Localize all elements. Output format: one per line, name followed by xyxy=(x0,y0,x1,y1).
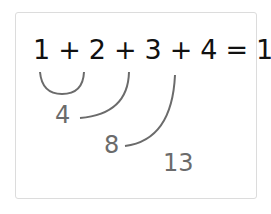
arc-to-4-icon xyxy=(80,72,129,118)
sum-arcs xyxy=(0,0,271,214)
running-sum-4: 4 xyxy=(55,103,70,127)
arc-1-2-icon xyxy=(40,72,84,94)
running-sum-13: 13 xyxy=(163,151,194,175)
running-sum-8: 8 xyxy=(104,133,119,157)
arc-to-8-icon xyxy=(125,75,175,146)
